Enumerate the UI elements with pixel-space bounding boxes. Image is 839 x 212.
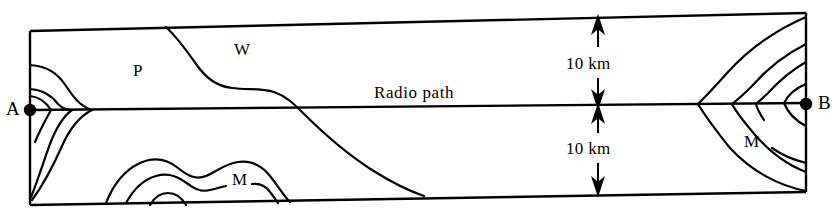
region-label-w: W	[234, 41, 250, 58]
radio-path-line	[30, 103, 806, 110]
dimension-label-lower: 10 km	[566, 140, 610, 157]
diagram-canvas	[0, 0, 839, 212]
dimension-label-upper: 10 km	[566, 55, 610, 72]
contour-group-left	[30, 65, 92, 200]
contour-p-w-boundary	[166, 27, 424, 196]
contour-m-middle-left	[126, 175, 226, 203]
contour-left-middle	[30, 89, 72, 197]
terminal-a-label: A	[6, 99, 20, 118]
radio-path-label: Radio path	[374, 84, 454, 101]
region-label-m-lower-left: M	[232, 171, 247, 188]
frame-top-edge	[30, 13, 806, 31]
contour-group-lower-left	[106, 160, 290, 205]
region-label-m-right: M	[744, 133, 759, 150]
contour-left-inner	[30, 96, 51, 142]
contour-m-outer	[106, 160, 290, 203]
contour-right-third-upper	[756, 62, 806, 120]
terminal-a-marker	[24, 104, 36, 116]
contour-right-second	[732, 44, 806, 172]
terminal-b-marker	[800, 98, 812, 110]
terminal-b-label: B	[818, 93, 831, 112]
region-label-p: P	[133, 62, 142, 79]
radio-path-diagram: A B P W M M Radio path 10 km 10 km	[0, 0, 839, 212]
